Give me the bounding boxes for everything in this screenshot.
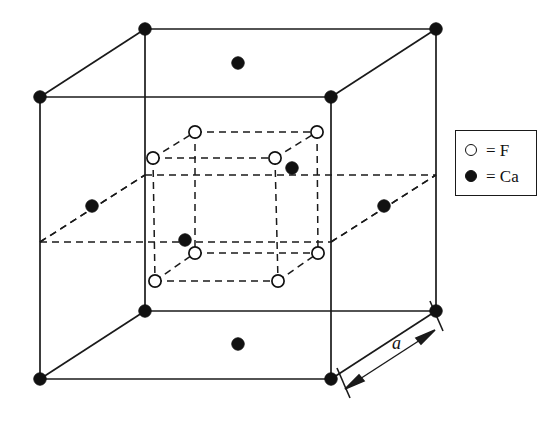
ca-atom: [139, 23, 151, 35]
f-atoms: [147, 126, 324, 287]
ca-atoms: [34, 23, 442, 385]
inner-edge-depth-top-right: [275, 132, 317, 158]
f-atom: [189, 247, 201, 259]
inner-edge-back-right: [317, 132, 318, 253]
ca-atom: [34, 373, 46, 385]
filled-circle-icon: [465, 170, 477, 182]
edge-depth-top-left: [40, 29, 145, 97]
inner-edge-front-left: [153, 158, 155, 281]
f-atom: [189, 126, 201, 138]
ca-atom-face-center-right: [378, 200, 390, 212]
f-atom: [312, 247, 324, 259]
dimension-arrowhead-left: [345, 375, 364, 389]
ca-atom-face-center-left: [86, 200, 98, 212]
f-atom: [311, 126, 323, 138]
ca-atom: [325, 373, 337, 385]
ca-atom: [430, 23, 442, 35]
dimension-arrowhead-right: [416, 330, 435, 344]
ca-atom-face-center-bottom: [232, 338, 244, 350]
legend-label-f: = F: [486, 142, 509, 159]
lattice-parameter-label: a: [392, 334, 401, 352]
crystal-structure-figure: a = F = Ca: [0, 0, 560, 422]
fluorite-unit-cell-drawing: [0, 0, 560, 422]
legend-item-f: = F: [465, 140, 509, 160]
open-circle-icon: [465, 144, 477, 156]
ca-atom: [325, 91, 337, 103]
edge-depth-top-right: [331, 29, 436, 97]
legend-item-ca: = Ca: [465, 166, 519, 186]
ca-atom-face-center-front: [179, 234, 191, 246]
outer-cube-depth-edges: [40, 29, 436, 379]
f-atom: [272, 275, 284, 287]
ca-atom-face-center-back: [286, 162, 298, 174]
f-atom: [269, 152, 281, 164]
face-center-guides: [40, 175, 436, 242]
mid-plane-dashed: [40, 175, 436, 242]
f-atom: [149, 275, 161, 287]
f-atom: [147, 152, 159, 164]
legend: = F = Ca: [455, 130, 537, 196]
edge-depth-bottom-right: [331, 311, 436, 379]
ca-atom-face-center-top: [232, 57, 244, 69]
inner-cube-dashed: [153, 132, 318, 281]
legend-label-ca: = Ca: [486, 168, 519, 185]
inner-edge-depth-bottom-left: [155, 253, 195, 281]
ca-atom: [34, 91, 46, 103]
edge-depth-bottom-left: [40, 311, 145, 379]
ca-atom: [139, 305, 151, 317]
dimension-arrow-a: [337, 301, 443, 398]
inner-edge-depth-top-left: [153, 132, 195, 158]
inner-edge-front-right: [275, 158, 278, 281]
dimension-tick-near: [337, 368, 350, 398]
inner-edge-depth-bottom-right: [278, 253, 318, 281]
ca-atom: [430, 305, 442, 317]
